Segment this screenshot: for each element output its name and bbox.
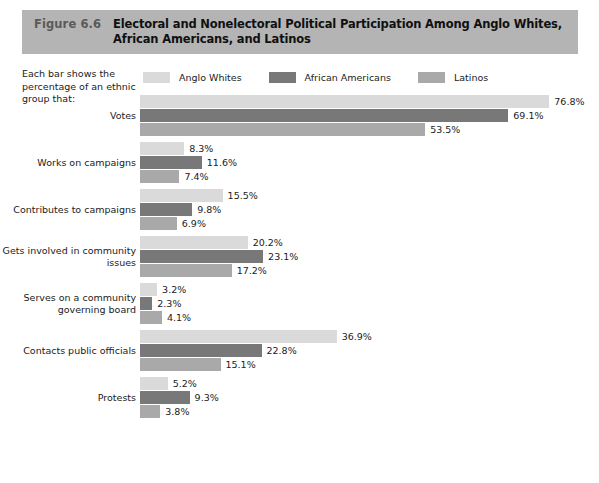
bar <box>140 189 223 202</box>
bar <box>140 405 160 418</box>
bar-row: 22.8% <box>140 344 599 357</box>
bar-value-label: 8.3% <box>189 143 213 154</box>
bar-value-label: 6.9% <box>182 218 206 229</box>
legend-swatch-icon <box>143 72 170 83</box>
bar-row: 2.3% <box>140 297 599 310</box>
bar <box>140 217 177 230</box>
bar <box>140 95 549 108</box>
bar-value-label: 53.5% <box>430 124 460 135</box>
bar-group-bars: 8.3%11.6%7.4% <box>140 142 599 183</box>
bar <box>140 358 221 371</box>
bar <box>140 297 152 310</box>
bar-group-bars: 5.2%9.3%3.8% <box>140 377 599 418</box>
bar <box>140 156 202 169</box>
bar-value-label: 69.1% <box>513 110 543 121</box>
bar <box>140 283 157 296</box>
figure-number: Figure 6.6 <box>34 17 101 31</box>
bar-row: 53.5% <box>140 123 599 136</box>
bar-value-label: 17.2% <box>237 265 267 276</box>
legend-label: Anglo Whites <box>179 72 242 83</box>
bar-value-label: 9.8% <box>197 204 221 215</box>
bar-value-label: 15.1% <box>226 359 256 370</box>
bar-row: 76.8% <box>140 95 599 108</box>
bar <box>140 142 184 155</box>
bar-row: 23.1% <box>140 250 599 263</box>
bar-group: Works on campaigns8.3%11.6%7.4% <box>0 142 599 183</box>
chart-plot-area: Votes76.8%69.1%53.5%Works on campaigns8.… <box>0 95 599 424</box>
bar-group-bars: 15.5%9.8%6.9% <box>140 189 599 230</box>
bar-group-bars: 76.8%69.1%53.5% <box>140 95 599 136</box>
bar <box>140 391 190 404</box>
bar <box>140 311 162 324</box>
bar-group-bars: 20.2%23.1%17.2% <box>140 236 599 277</box>
bar-value-label: 2.3% <box>157 298 181 309</box>
bar-group-label: Works on campaigns <box>0 157 140 169</box>
bar-group: Contributes to campaigns15.5%9.8%6.9% <box>0 189 599 230</box>
figure-page: { "figure": { "number": "Figure 6.6", "t… <box>0 0 599 483</box>
bar-group: Protests5.2%9.3%3.8% <box>0 377 599 418</box>
bar <box>140 203 192 216</box>
bar-row: 11.6% <box>140 156 599 169</box>
bar <box>140 123 425 136</box>
bar-row: 36.9% <box>140 330 599 343</box>
legend-item: Anglo Whites <box>143 72 242 83</box>
bar-group: Contacts public officials36.9%22.8%15.1% <box>0 330 599 371</box>
bar-row: 3.2% <box>140 283 599 296</box>
bar-value-label: 3.8% <box>165 406 189 417</box>
bar-group: Gets involved in community issues20.2%23… <box>0 236 599 277</box>
bar-group-bars: 3.2%2.3%4.1% <box>140 283 599 324</box>
bar-row: 6.9% <box>140 217 599 230</box>
legend-label: Latinos <box>454 72 488 83</box>
bar-row: 8.3% <box>140 142 599 155</box>
figure-title: Electoral and Nonelectoral Political Par… <box>113 17 568 46</box>
bar-row: 20.2% <box>140 236 599 249</box>
chart-legend: Anglo WhitesAfrican AmericansLatinos <box>143 70 515 84</box>
legend-item: African Americans <box>269 72 391 83</box>
bar-value-label: 23.1% <box>268 251 298 262</box>
bar <box>140 330 337 343</box>
bar-row: 9.8% <box>140 203 599 216</box>
bar-value-label: 76.8% <box>554 96 584 107</box>
bar <box>140 236 248 249</box>
legend-swatch-icon <box>269 72 296 83</box>
bar-value-label: 9.3% <box>195 392 219 403</box>
bar-row: 69.1% <box>140 109 599 122</box>
bar-value-label: 3.2% <box>162 284 186 295</box>
bar-row: 4.1% <box>140 311 599 324</box>
bar <box>140 264 232 277</box>
bar <box>140 344 262 357</box>
legend-item: Latinos <box>418 72 488 83</box>
bar-row: 15.1% <box>140 358 599 371</box>
bar-group-label: Gets involved in community issues <box>0 245 140 269</box>
bar-value-label: 5.2% <box>173 378 197 389</box>
bar-group-label: Votes <box>0 110 140 122</box>
bar-group-label: Contacts public officials <box>0 345 140 357</box>
bar-value-label: 20.2% <box>253 237 283 248</box>
bar <box>140 109 508 122</box>
bar-row: 9.3% <box>140 391 599 404</box>
bar-group-label: Contributes to campaigns <box>0 204 140 216</box>
bar-group: Votes76.8%69.1%53.5% <box>0 95 599 136</box>
bar-row: 5.2% <box>140 377 599 390</box>
bar-group-label: Protests <box>0 392 140 404</box>
bar-group-bars: 36.9%22.8%15.1% <box>140 330 599 371</box>
bar-row: 3.8% <box>140 405 599 418</box>
legend-swatch-icon <box>418 72 445 83</box>
bar-row: 7.4% <box>140 170 599 183</box>
bar-value-label: 15.5% <box>228 190 258 201</box>
bar <box>140 170 179 183</box>
bar-value-label: 7.4% <box>184 171 208 182</box>
bar-row: 17.2% <box>140 264 599 277</box>
bar-value-label: 36.9% <box>342 331 372 342</box>
legend-label: African Americans <box>305 72 391 83</box>
bar-row: 15.5% <box>140 189 599 202</box>
bar-group-label: Serves on a community governing board <box>0 292 140 316</box>
bar-group: Serves on a community governing board3.2… <box>0 283 599 324</box>
bar <box>140 250 263 263</box>
figure-banner: Figure 6.6 Electoral and Nonelectoral Po… <box>22 10 578 54</box>
bar-value-label: 4.1% <box>167 312 191 323</box>
bar-value-label: 22.8% <box>267 345 297 356</box>
bar-value-label: 11.6% <box>207 157 237 168</box>
bar <box>140 377 168 390</box>
